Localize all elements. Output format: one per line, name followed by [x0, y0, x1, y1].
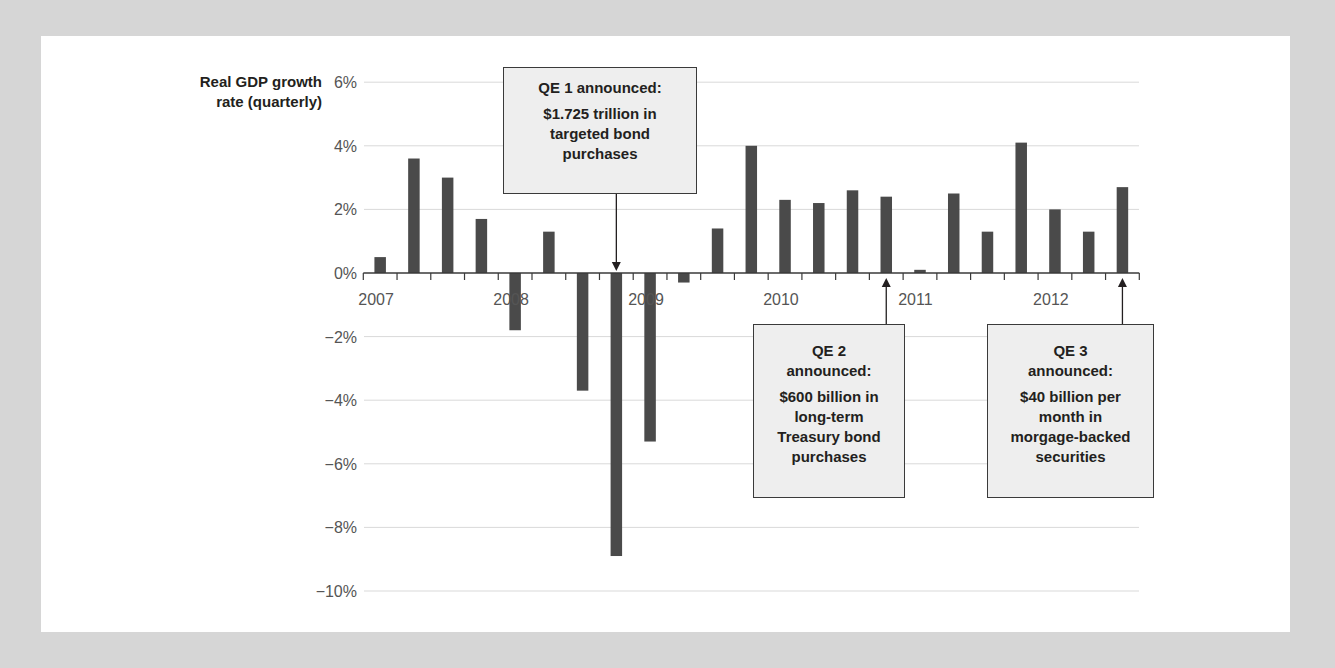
y-axis-title-line1: Real GDP growth [150, 72, 322, 92]
bar-2007Q3 [442, 178, 454, 273]
y-axis-title-line2: rate (quarterly) [150, 92, 322, 112]
y-tick-label: −8% [325, 519, 357, 536]
qe1-heading: QE 1 announced: [504, 78, 696, 98]
bar-2011Q4 [1015, 143, 1027, 273]
y-tick-label: 4% [334, 138, 357, 155]
qe2-callout: QE 2 announced: $600 billion in long-ter… [753, 324, 905, 498]
x-tick-label: 2007 [358, 291, 394, 308]
bar-2012Q2 [1083, 232, 1095, 273]
x-tick-label: 2008 [493, 291, 529, 308]
qe3-line: securities [988, 447, 1153, 467]
bar-2008Q2 [543, 232, 555, 273]
qe1-callout: QE 1 announced: $1.725 trillion in targe… [503, 67, 697, 194]
bar-2010Q4 [881, 197, 893, 273]
bar-2010Q3 [847, 190, 859, 273]
bar-2010Q1 [779, 200, 791, 273]
bar-2012Q3 [1117, 187, 1129, 273]
x-tick-label: 2011 [898, 291, 933, 308]
bar-2012Q1 [1049, 209, 1061, 273]
bar-2009Q2 [678, 273, 690, 283]
bar-2009Q4 [746, 146, 758, 273]
y-tick-label: −2% [325, 329, 357, 346]
bar-2010Q2 [813, 203, 825, 273]
bar-2011Q2 [948, 194, 960, 274]
qe2-arrow-icon [882, 278, 891, 287]
qe1-line: purchases [504, 144, 696, 164]
qe2-line: $600 billion in [754, 387, 904, 407]
qe2-heading: QE 2 [754, 341, 904, 361]
qe3-line: $40 billion per [988, 387, 1153, 407]
bar-2007Q2 [408, 159, 420, 273]
qe3-line: morgage-backed [988, 427, 1153, 447]
bar-2008Q3 [577, 273, 589, 391]
qe1-line: targeted bond [504, 124, 696, 144]
bar-2007Q1 [374, 257, 386, 273]
x-tick-label: 2012 [1033, 291, 1069, 308]
qe3-heading: QE 3 [988, 341, 1153, 361]
qe2-line: purchases [754, 447, 904, 467]
qe3-arrow-icon [1118, 278, 1127, 287]
y-tick-label: −10% [316, 583, 357, 600]
bar-2009Q3 [712, 228, 724, 273]
qe3-heading-sub: announced: [988, 361, 1153, 381]
y-tick-label: 0% [334, 265, 357, 282]
bar-2008Q4 [611, 273, 623, 556]
x-tick-label: 2009 [628, 291, 664, 308]
qe2-heading-sub: announced: [754, 361, 904, 381]
y-tick-label: −6% [325, 456, 357, 473]
x-tick-label: 2010 [763, 291, 799, 308]
qe1-line: $1.725 trillion in [504, 104, 696, 124]
bar-2011Q3 [982, 232, 994, 273]
y-tick-label: 2% [334, 201, 357, 218]
bar-2007Q4 [476, 219, 488, 273]
y-tick-label: 6% [334, 74, 357, 91]
qe1-arrow-icon [612, 262, 621, 271]
y-axis-title: Real GDP growth rate (quarterly) [150, 72, 322, 112]
qe3-callout: QE 3 announced: $40 billion per month in… [987, 324, 1154, 498]
qe2-line: Treasury bond [754, 427, 904, 447]
qe2-line: long-term [754, 407, 904, 427]
y-tick-label: −4% [325, 392, 357, 409]
qe3-line: month in [988, 407, 1153, 427]
